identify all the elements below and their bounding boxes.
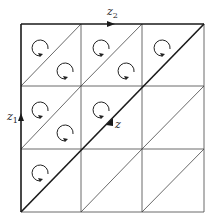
circulation-arrow-icon: [93, 102, 109, 119]
label-z: z: [114, 118, 121, 131]
z1-arrow-icon: [18, 113, 24, 121]
circulation-arrow-icon: [32, 165, 48, 182]
z2-arrow-icon: [107, 21, 115, 27]
circulation-arrow-icon: [57, 125, 73, 142]
circulation-arrow-icon: [32, 40, 48, 57]
circulation-arrow-icon: [32, 102, 48, 119]
circulation-arrow-icon: [57, 63, 73, 80]
label-z2: z2: [106, 5, 118, 20]
z-arrow-icon: [106, 118, 113, 126]
label-z1: z1: [6, 110, 18, 125]
main-diagonal: [21, 24, 204, 212]
contour-diagram: z2 z1 z: [0, 0, 209, 224]
circulation-arrow-icon: [154, 40, 170, 57]
thick-borders: [21, 24, 204, 212]
circulation-arrow-icon: [93, 40, 109, 57]
circulation-arrow-icon: [118, 63, 134, 80]
circulation-arrows: [32, 40, 170, 182]
